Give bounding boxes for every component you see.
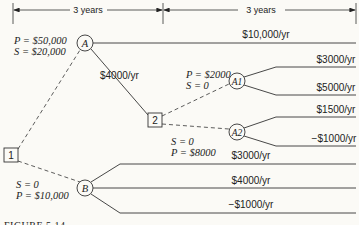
node-1-label: 1 [8, 150, 14, 161]
label-A-high: $10,000/yr [242, 29, 290, 40]
chance-node-A1: A1 [229, 73, 245, 89]
label-A-low: $4000/yr [100, 70, 140, 81]
decision-tree-figure: 3 years 3 years $10,000/yr $4000/yr $300… [0, 0, 359, 225]
label-A1-low: $5000/yr [317, 82, 357, 93]
label-B-high: $3000/yr [232, 150, 272, 161]
branch-B-high [91, 164, 356, 182]
chance-node-A: A [77, 35, 93, 51]
node-A-label: A [81, 38, 89, 49]
param-A-P: P = $50,000 [13, 35, 67, 46]
branch-2-to-A2 [162, 124, 229, 129]
branch-1-to-A [18, 50, 80, 149]
param-A-S: S = $20,000 [14, 46, 66, 57]
param-A1-P: P = $2000 [185, 69, 232, 80]
node-A2-label: A2 [231, 128, 243, 138]
label-A1-high: $3000/yr [317, 54, 357, 65]
node-B-label: B [82, 183, 89, 194]
param-A1-S: S = 0 [186, 80, 210, 91]
branch-A1-high [244, 67, 356, 77]
time-dimension-lines [13, 3, 356, 24]
branch-A2-high [244, 117, 356, 128]
label-A2-low: −$1000/yr [312, 133, 357, 144]
param-A2-P: P = $8000 [170, 147, 217, 158]
label-B-mid: $4000/yr [232, 175, 272, 186]
decision-tree-svg: 3 years 3 years $10,000/yr $4000/yr $300… [0, 0, 359, 225]
label-A2-high: $1500/yr [317, 104, 357, 115]
figure-caption: FIGURE 5.14 [4, 220, 66, 225]
param-B-P: P = $10,000 [15, 190, 69, 201]
branch-B-low [91, 194, 356, 213]
dimension-label-1: 3 years [73, 5, 103, 15]
chance-node-B: B [77, 180, 93, 196]
node-2-label: 2 [152, 115, 158, 126]
label-B-low: −$1000/yr [229, 199, 274, 210]
chance-node-A2: A2 [229, 124, 245, 140]
param-A2-S: S = 0 [171, 136, 195, 147]
node-A1-label: A1 [231, 77, 243, 87]
decision-node-1: 1 [4, 148, 18, 162]
param-B-S: S = 0 [16, 179, 40, 190]
decision-node-2: 2 [148, 113, 162, 127]
dimension-label-2: 3 years [246, 5, 276, 15]
branch-A-low [91, 49, 148, 115]
